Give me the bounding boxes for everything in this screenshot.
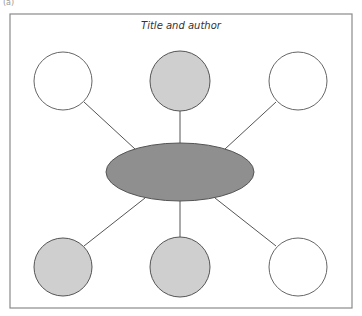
node-bottom-left	[34, 238, 92, 296]
node-top-right	[269, 52, 327, 110]
node-top-left	[34, 52, 92, 110]
central-topic-ellipse	[106, 143, 254, 201]
node-top-center	[150, 51, 210, 111]
diagram-title: Title and author	[0, 20, 362, 31]
node-bottom-right	[269, 238, 327, 296]
mind-map-diagram	[0, 0, 362, 316]
node-bottom-center	[150, 237, 210, 297]
